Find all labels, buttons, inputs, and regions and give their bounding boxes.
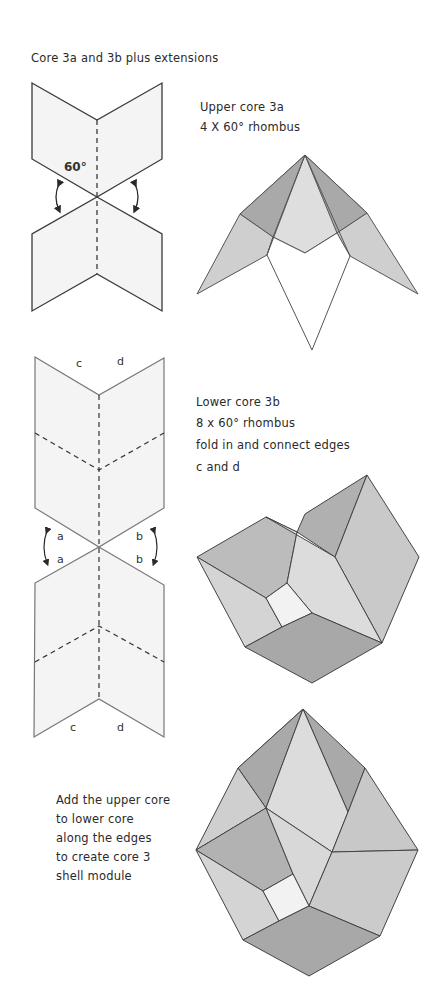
diagram-canvas xyxy=(0,0,444,986)
edge-label-c-top: c xyxy=(76,357,82,370)
net-upper-core xyxy=(32,83,162,311)
edge-label-b-top: b xyxy=(136,530,143,543)
edge-label-d-bottom: d xyxy=(117,721,124,734)
net-lower-core xyxy=(34,357,164,737)
edge-label-d-top: d xyxy=(117,355,124,368)
lower-core-3d xyxy=(197,475,419,683)
angle-label: 60° xyxy=(64,160,87,174)
edge-label-c-bottom: c xyxy=(70,721,76,734)
edge-label-a-top: a xyxy=(57,530,64,543)
edge-label-b-bottom: b xyxy=(136,553,143,566)
edge-label-a-bottom: a xyxy=(57,553,64,566)
upper-core-3d xyxy=(197,155,418,350)
assembled-core-3d xyxy=(196,709,418,976)
